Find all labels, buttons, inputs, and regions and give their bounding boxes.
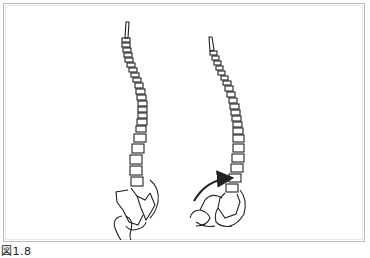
vertebrae-right — [210, 51, 244, 192]
vertebrae-left — [122, 38, 147, 186]
spine-neutral-pelvis — [114, 22, 158, 240]
figure-caption: 図1.8 — [1, 246, 32, 258]
spine-tilted-pelvis — [190, 37, 245, 227]
curved-arrow-icon — [194, 178, 230, 201]
